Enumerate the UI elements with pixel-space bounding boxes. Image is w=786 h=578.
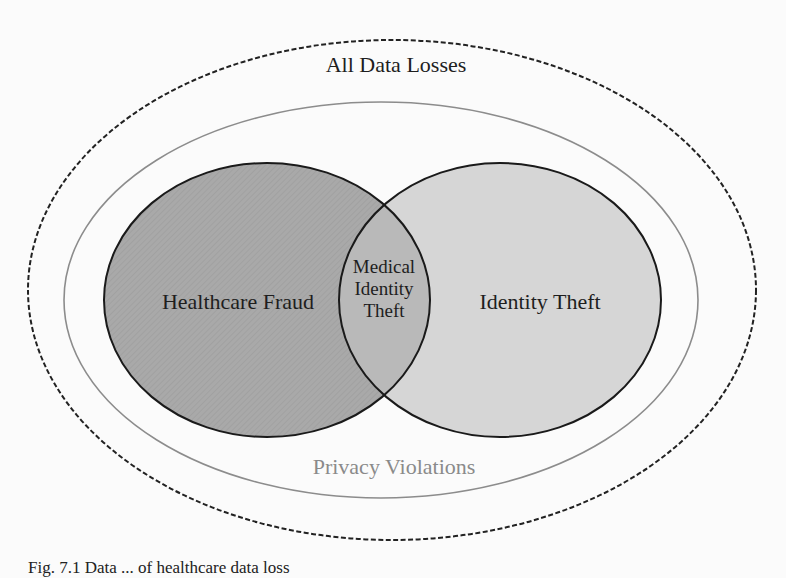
intersection-label-line-2: Identity (353, 278, 415, 300)
identity-theft-label: Identity Theft (479, 291, 600, 313)
medical-identity-theft-label: Medical Identity Theft (353, 256, 415, 322)
privacy-violations-label: Privacy Violations (313, 456, 476, 478)
healthcare-fraud-label: Healthcare Fraud (162, 291, 314, 313)
intersection-label-line-1: Medical (353, 256, 415, 278)
figure-caption: Fig. 7.1 Data ... of healthcare data los… (28, 558, 290, 578)
intersection-label-line-3: Theft (353, 300, 415, 322)
all-data-losses-label: All Data Losses (326, 54, 467, 76)
